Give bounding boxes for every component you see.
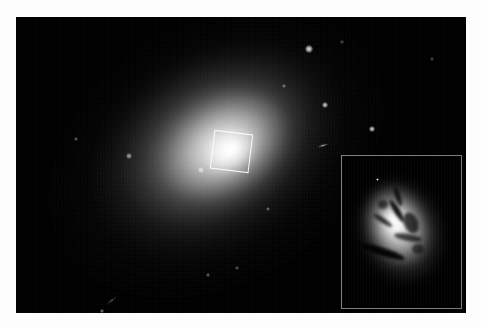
edge-on-galaxy — [316, 142, 330, 149]
dust-patch-nw — [378, 200, 388, 209]
star-3 — [369, 126, 376, 133]
star-7 — [74, 137, 78, 141]
star-9 — [100, 309, 105, 313]
main-image-frame — [16, 17, 466, 313]
inset-core-peak — [375, 200, 414, 242]
star-11 — [235, 266, 239, 270]
dust-lane-left — [372, 212, 393, 228]
nuclear-region-marker-box — [210, 130, 253, 173]
dust-lane-arc — [394, 232, 423, 244]
star-5 — [198, 167, 204, 173]
dust-lane-central — [388, 198, 407, 223]
inset-panel — [341, 155, 462, 309]
star-10 — [206, 273, 210, 277]
star-6 — [282, 84, 286, 88]
dust-lane-lower — [360, 241, 406, 263]
dust-lane-upper — [393, 186, 404, 207]
star-8 — [266, 207, 270, 211]
inset-core-halo — [341, 155, 462, 306]
dust-lane-right — [400, 210, 421, 236]
faint-streak — [104, 294, 119, 307]
inset-core-bright — [351, 175, 446, 284]
page-background — [0, 0, 481, 328]
inset-noise-texture — [342, 156, 461, 308]
star-2 — [322, 102, 328, 108]
star-13 — [430, 57, 433, 60]
dust-patch-se — [412, 244, 424, 254]
star-12 — [340, 40, 343, 43]
star-4 — [126, 153, 131, 158]
inset-point-source — [376, 178, 379, 181]
star-1 — [305, 45, 313, 53]
